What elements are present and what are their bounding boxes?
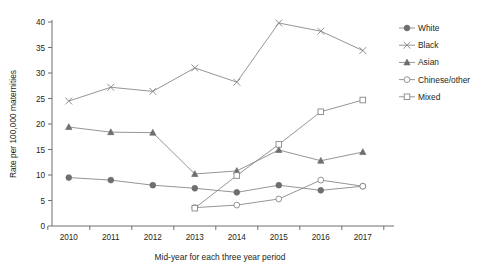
y-tick-label: 20 [36, 120, 46, 129]
marker-filled-triangle [360, 149, 366, 155]
marker-open-square [360, 97, 366, 103]
x-tick-label: 2012 [144, 233, 163, 242]
line-chart: 0510152025303540201020112012201320142015… [0, 0, 489, 272]
marker-filled-circle [404, 25, 410, 31]
series-mixed [192, 97, 366, 211]
legend-item-mixed[interactable]: Mixed [399, 92, 441, 102]
chart-canvas: 0510152025303540201020112012201320142015… [0, 0, 489, 272]
marker-open-circle [360, 183, 366, 189]
legend-item-asian[interactable]: Asian [399, 57, 439, 67]
y-tick-label: 15 [36, 146, 46, 155]
marker-filled-circle [276, 182, 282, 188]
y-tick-label: 5 [40, 197, 45, 206]
marker-filled-circle [150, 182, 156, 188]
y-tick-label: 35 [36, 44, 46, 53]
legend-item-white[interactable]: White [399, 23, 440, 33]
y-tick-label: 25 [36, 95, 46, 104]
legend-label: Asian [418, 57, 439, 67]
legend-label: Chinese/other [418, 75, 470, 85]
x-tick-label: 2015 [270, 233, 289, 242]
legend-item-chinese-other[interactable]: Chinese/other [399, 75, 470, 85]
marker-filled-triangle [66, 124, 72, 130]
y-tick-label: 40 [36, 18, 46, 27]
marker-open-square [276, 142, 282, 148]
x-tick-label: 2017 [354, 233, 373, 242]
x-tick-label: 2013 [186, 233, 205, 242]
series-path [195, 100, 363, 208]
legend-item-black[interactable]: Black [399, 40, 439, 50]
series-black [65, 20, 366, 105]
y-tick-label: 0 [40, 222, 45, 231]
x-tick-label: 2014 [228, 233, 247, 242]
marker-open-circle [276, 196, 282, 202]
marker-filled-circle [66, 175, 72, 181]
marker-open-circle [318, 177, 324, 183]
series-asian [66, 124, 366, 177]
marker-filled-circle [192, 185, 198, 191]
marker-open-square [404, 94, 410, 100]
legend-label: Mixed [418, 92, 441, 102]
y-tick-label: 30 [36, 69, 46, 78]
marker-filled-circle [234, 189, 240, 195]
marker-filled-circle [318, 187, 324, 193]
x-tick-label: 2016 [312, 233, 331, 242]
x-tick-label: 2011 [102, 233, 120, 242]
y-axis-title: Rate per 100,000 maternities [8, 70, 18, 178]
marker-open-circle [404, 77, 410, 83]
marker-open-square [192, 205, 198, 211]
x-tick-label: 2010 [60, 233, 79, 242]
marker-open-square [234, 173, 240, 179]
legend-label: White [418, 23, 440, 33]
marker-open-circle [234, 202, 240, 208]
marker-open-square [318, 109, 324, 115]
x-axis-title: Mid-year for each three year period [155, 252, 286, 262]
legend-label: Black [418, 40, 439, 50]
marker-filled-circle [108, 177, 114, 183]
y-tick-label: 10 [36, 171, 46, 180]
